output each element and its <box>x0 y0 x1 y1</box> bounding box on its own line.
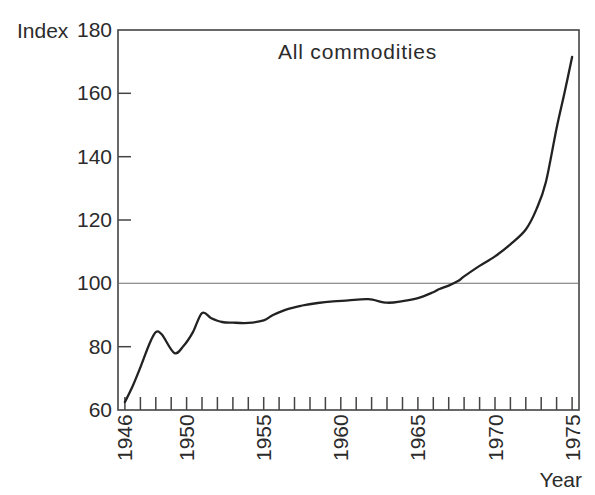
chart-title: All commodities <box>278 40 437 63</box>
x-tick-label: 1950 <box>175 414 198 461</box>
plot-frame <box>118 30 579 410</box>
y-tick-label: 120 <box>77 208 112 231</box>
y-tick-label: 80 <box>89 335 112 358</box>
line-chart-svg: 6080100120140160180194619501955196019651… <box>0 0 595 495</box>
x-tick-label: 1975 <box>561 414 584 461</box>
x-tick-label: 1955 <box>252 414 275 461</box>
y-tick-label: 140 <box>77 145 112 168</box>
y-tick-label: 100 <box>77 271 112 294</box>
x-tick-label: 1960 <box>329 414 352 461</box>
y-axis-title: Index <box>17 19 68 42</box>
chart: 6080100120140160180194619501955196019651… <box>0 0 595 495</box>
y-tick-label: 60 <box>89 398 112 421</box>
series-line <box>125 57 572 402</box>
y-tick-label: 180 <box>77 18 112 41</box>
x-tick-label: 1970 <box>484 414 507 461</box>
x-tick-label: 1946 <box>113 414 136 461</box>
y-tick-label: 160 <box>77 81 112 104</box>
x-tick-label: 1965 <box>406 414 429 461</box>
x-axis-title: Year <box>540 468 582 491</box>
